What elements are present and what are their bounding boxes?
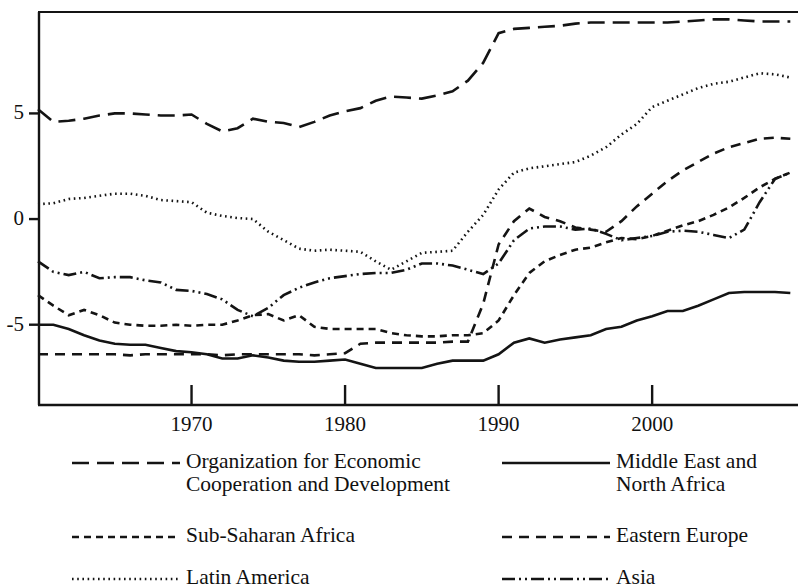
legend-item-label: Latin America [182,566,310,588]
legend-item[interactable]: Latin America [72,566,310,588]
x-axis-tick-label: 2000 [612,414,692,435]
series-line-latin-america [38,73,790,270]
x-axis-tick-label: 1970 [152,414,232,435]
legend-line-sample-solid [502,457,612,473]
x-axis-tick-label: 1990 [459,414,539,435]
series-line-eastern-europe [38,138,790,356]
legend-item[interactable]: Eastern Europe [502,524,748,547]
data-series-group [38,19,790,368]
legend-line-sample-dash-dot-dot [502,573,612,588]
legend-item-label: Sub-Saharan Africa [182,524,355,547]
legend-line-sample-long-dash [72,457,182,473]
legend-line-sample-dotted [72,573,182,588]
chart-legend: Organization for Economic Cooperation an… [0,448,798,578]
legend-item-label: Eastern Europe [612,524,748,547]
y-axis-tick-label: -5 [0,314,24,335]
series-line-oecd [38,19,790,131]
legend-item[interactable]: Sub-Saharan Africa [72,524,355,547]
legend-line-sample-medium-dash [502,531,612,547]
legend-item-label: Organization for Economic Cooperation an… [182,450,450,496]
x-axis-tick-label: 1980 [305,414,385,435]
x-axis-ticks [192,385,653,405]
legend-item[interactable]: Organization for Economic Cooperation an… [72,450,450,496]
series-line-asia [38,173,790,317]
y-axis-tick-label: 0 [0,208,24,229]
legend-item-label: Middle East and North Africa [612,450,757,496]
y-axis-ticks [29,113,39,324]
series-line-middle-east-and-north-africa [38,292,790,368]
legend-item[interactable]: Asia [502,566,655,588]
legend-item[interactable]: Middle East and North Africa [502,450,757,496]
legend-item-label: Asia [612,566,655,588]
legend-line-sample-short-dash [72,531,182,547]
y-axis-tick-label: 5 [0,102,24,123]
